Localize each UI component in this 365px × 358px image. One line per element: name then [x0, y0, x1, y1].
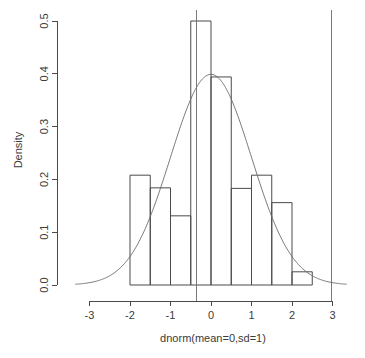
histogram-bar — [211, 77, 231, 285]
histogram-bar — [272, 203, 292, 285]
y-tick-label: 0.4 — [38, 66, 50, 81]
y-tick-label: 0.5 — [38, 13, 50, 28]
x-tick-label: -2 — [125, 309, 135, 321]
y-tick-label: 0.3 — [38, 119, 50, 134]
x-axis-title: dnorm(mean=0,sd=1) — [160, 332, 266, 344]
x-tick-label: 3 — [329, 309, 335, 321]
x-tick-label: -3 — [85, 309, 95, 321]
x-tick-label: -1 — [166, 309, 176, 321]
plot-root: 0.00.10.20.30.40.5 -3-2-10123 Density dn… — [0, 0, 365, 358]
y-axis-title: Density — [12, 131, 24, 168]
histogram-bar — [191, 21, 211, 285]
y-axis-tick-labels: 0.00.10.20.30.40.5 — [38, 13, 50, 292]
x-axis-tick-labels: -3-2-10123 — [85, 309, 336, 321]
histogram-density-plot: 0.00.10.20.30.40.5 -3-2-10123 Density dn… — [0, 0, 365, 358]
histogram-bar — [252, 175, 272, 285]
histogram-bar — [171, 216, 191, 285]
y-tick-label: 0.2 — [38, 172, 50, 187]
x-tick-label: 0 — [208, 309, 214, 321]
x-tick-label: 2 — [289, 309, 295, 321]
vertical-reference-lines — [196, 10, 331, 301]
histogram-bar — [231, 188, 251, 285]
histogram-bar — [150, 188, 170, 285]
histogram-bar — [130, 175, 150, 285]
x-tick-label: 1 — [248, 309, 254, 321]
y-axis-ticks — [52, 21, 57, 285]
y-tick-label: 0.0 — [38, 277, 50, 292]
x-axis-ticks — [90, 301, 333, 306]
y-tick-label: 0.1 — [38, 225, 50, 240]
